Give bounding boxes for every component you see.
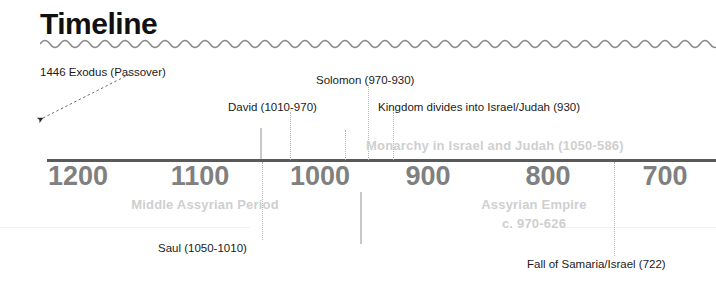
faint-rule-left [0,227,250,228]
period-label-assyrian-empire: Assyrian Empire [481,197,587,212]
year-label-800: 800 [525,161,570,192]
exodus-pointer-arrow-icon [25,70,140,130]
timeline-page: Timeline 1200 1100 1000 900 800 700 1446… [0,0,716,281]
event-label-fall-of-samaria: Fall of Samaria/Israel (722) [527,258,666,270]
tick-mark-above-axis [260,128,262,159]
event-label-saul: Saul (1050-1010) [158,242,247,254]
wavy-divider-icon [40,36,716,50]
tick-mark-below-axis [360,192,362,244]
event-label-solomon: Solomon (970-930) [316,74,414,86]
timeline-axis [47,159,716,162]
year-label-1000: 1000 [290,161,350,192]
period-label-monarchy: Monarchy in Israel and Judah (1050-586) [366,138,624,153]
faint-rule-right [560,227,716,228]
period-label-middle-assyrian: Middle Assyrian Period [131,197,279,212]
monarchy-leader-line [345,130,346,160]
year-label-900: 900 [405,161,450,192]
event-label-david: David (1010-970) [228,101,317,113]
samaria-leader-line [614,162,615,256]
year-label-700: 700 [642,161,687,192]
david-leader-line [290,112,291,160]
period-label-assyrian-empire-dates: c. 970-626 [502,216,566,231]
event-label-kingdom-divides: Kingdom divides into Israel/Judah (930) [378,101,580,113]
year-label-1200: 1200 [48,161,108,192]
year-label-1100: 1100 [171,161,230,192]
